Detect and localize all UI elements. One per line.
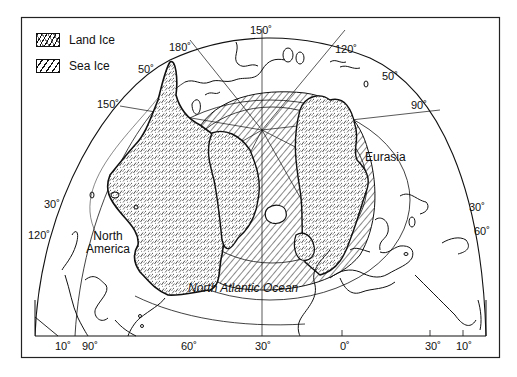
land-ice-swatch-icon: [36, 33, 60, 47]
legend-item-sea-ice: Sea Ice: [36, 58, 110, 74]
graticule-label: 30˚: [44, 199, 60, 210]
axis-tick-label: 30˚: [255, 341, 271, 352]
axis-tick-label: 90˚: [82, 341, 98, 352]
axis-tick-label: 0˚: [340, 341, 350, 352]
legend-label: Land Ice: [69, 33, 115, 47]
graticule-label: 150˚: [250, 25, 272, 36]
legend-item-land-ice: Land Ice: [36, 32, 115, 48]
graticule-label: 30˚: [469, 202, 485, 213]
region-label-north-america: North America: [86, 230, 130, 256]
graticule-label: 50˚: [382, 71, 398, 82]
graticule-label: 120˚: [28, 230, 50, 241]
graticule-label: 180˚: [169, 42, 191, 53]
legend-label: Sea Ice: [69, 59, 110, 73]
polar-map: [0, 0, 517, 377]
axis-tick-label: 30˚: [425, 341, 441, 352]
graticule-label: 60˚: [474, 226, 490, 237]
axis-tick-label: 10˚: [55, 341, 71, 352]
axis-tick-label: 60˚: [181, 341, 197, 352]
iceland: [265, 205, 286, 223]
region-label-line: America: [86, 243, 130, 256]
graticule-label: 90˚: [411, 100, 427, 111]
axis-tick-label: 10˚: [456, 341, 472, 352]
graticule-label: 50˚: [138, 64, 154, 75]
graticule-label: 150˚: [97, 99, 119, 110]
region-label-eurasia: Eurasia: [365, 151, 406, 164]
graticule-label: 120˚: [335, 44, 357, 55]
region-label-ocean: North Atlantic Ocean: [188, 283, 298, 294]
sea-ice-swatch-icon: [36, 59, 60, 73]
